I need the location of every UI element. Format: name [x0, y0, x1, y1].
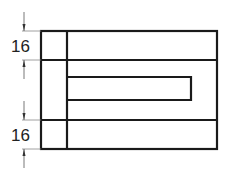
arrow-up-icon: [23, 60, 26, 67]
dimension-label-top: 16: [11, 37, 30, 56]
drawing-canvas: 16 16: [0, 0, 230, 172]
technical-drawing: 16 16: [0, 0, 230, 172]
dimension-label-bottom: 16: [11, 126, 30, 145]
arrow-down-icon: [23, 24, 26, 31]
inner-slot: [67, 77, 191, 100]
arrow-up-icon: [23, 149, 26, 156]
arrow-down-icon: [23, 113, 26, 120]
